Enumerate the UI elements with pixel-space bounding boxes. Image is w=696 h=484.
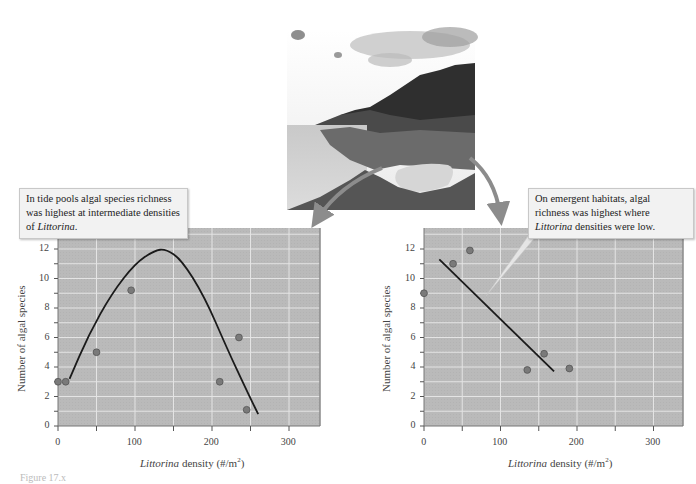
left-y-tick-label: 10 [39, 272, 49, 283]
left-x-tick-label: 0 [55, 436, 60, 447]
left-callout-genus: Littorina [37, 221, 74, 232]
left-y-axis-label: Number of algal species [15, 285, 27, 392]
right-x-tick-label: 300 [645, 436, 660, 447]
right-y-tick-label: 10 [405, 272, 415, 283]
left-y-tick-label: 0 [45, 419, 50, 430]
right-callout-text: On emergent habitats, algal richness was… [535, 193, 650, 218]
left-y-tick-label: 8 [45, 301, 50, 312]
left-x-tick-label: 300 [281, 436, 296, 447]
right-callout-suffix: densities were low. [572, 221, 655, 232]
left-annotation-callout: In tide pools algal species richness was… [19, 188, 188, 239]
right-x-tick-label: 200 [569, 436, 584, 447]
right-annotation-callout: On emergent habitats, algal richness was… [528, 188, 694, 239]
data-point [450, 260, 457, 267]
data-point [421, 290, 428, 297]
right-y-tick-label: 2 [411, 390, 416, 401]
right-y-tick-label: 6 [411, 331, 416, 342]
right-x-label-close: ) [609, 457, 613, 469]
right-y-tick-label: 12 [405, 242, 415, 253]
data-point [524, 367, 531, 374]
left-callout-suffix: . [75, 221, 78, 232]
data-point [93, 349, 100, 356]
figure-caption: Figure 17.x [20, 472, 66, 483]
right-x-tick-label: 0 [421, 436, 426, 447]
left-x-label-genus: Littorina [140, 457, 179, 469]
right-x-label-unit: density (#/m [547, 457, 605, 469]
left-x-tick-label: 200 [204, 436, 219, 447]
right-callout-genus: Littorina [535, 221, 572, 232]
data-point [236, 334, 243, 341]
left-x-axis-label: Littorina density (#/m2) [140, 456, 244, 469]
right-y-axis-label: Number of algal species [380, 285, 392, 392]
right-x-tick-label: 100 [492, 436, 507, 447]
left-x-label-close: ) [241, 457, 245, 469]
charts-canvas [0, 0, 696, 484]
data-point [128, 287, 135, 294]
arrow-to-right-chart [470, 158, 500, 214]
data-point [216, 378, 223, 385]
right-y-tick-label: 8 [411, 301, 416, 312]
left-x-tick-label: 100 [127, 436, 142, 447]
left-y-tick-label: 2 [45, 390, 50, 401]
right-y-tick-label: 0 [411, 419, 416, 430]
data-point [467, 247, 474, 254]
left-y-tick-label: 6 [45, 331, 50, 342]
arrow-to-left-chart [318, 168, 382, 218]
left-y-tick-label: 12 [39, 242, 49, 253]
data-point [243, 406, 250, 413]
left-plot [54, 218, 320, 431]
data-point [566, 365, 573, 372]
right-plot [420, 222, 683, 431]
data-point [55, 378, 62, 385]
data-point [62, 378, 69, 385]
right-x-label-genus: Littorina [508, 457, 547, 469]
data-point [541, 350, 548, 357]
left-y-tick-label: 4 [45, 360, 50, 371]
right-x-axis-label: Littorina density (#/m2) [508, 456, 612, 469]
left-x-label-unit: density (#/m [179, 457, 237, 469]
right-y-tick-label: 4 [411, 360, 416, 371]
